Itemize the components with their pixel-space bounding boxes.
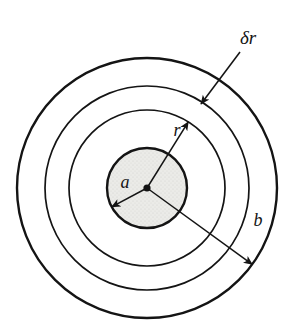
label-a: a bbox=[121, 172, 130, 192]
label-r: r bbox=[173, 120, 181, 140]
label-delta-r: δr bbox=[240, 27, 257, 48]
label-b: b bbox=[254, 210, 263, 230]
figure-container: δr r a b bbox=[0, 0, 304, 332]
center-dot bbox=[143, 184, 150, 191]
concentric-circles-diagram: δr r a b bbox=[0, 0, 304, 332]
